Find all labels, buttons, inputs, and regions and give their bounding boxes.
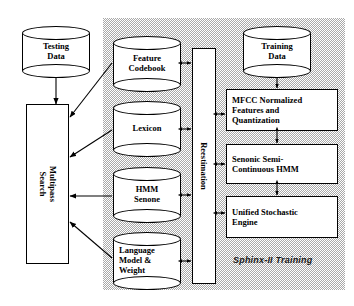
hmm-senone-cylinder: HMM Senone: [113, 167, 181, 223]
lexicon-cylinder: Lexicon: [113, 101, 181, 157]
testing-data-cylinder: Testing Data: [22, 26, 90, 78]
senonic-hmm-label: Senonic Semi- Continuous HMM: [227, 154, 304, 174]
mfcc-normalization-box: MFCC Normalized Features and Quantizatio…: [226, 89, 338, 131]
training-data-cylinder: Training Data: [243, 26, 311, 78]
cylinder-top-cap: [113, 101, 181, 115]
language-model-weight-cylinder: Language Model & Weight: [113, 232, 181, 290]
cylinder-bottom-cap: [113, 143, 181, 157]
testing-data-label: Testing Data: [22, 40, 90, 62]
cylinder-bottom-cap: [22, 64, 90, 78]
sphinx-ii-training-caption: Sphinx-II Training: [233, 255, 312, 265]
cylinder-bottom-cap: [113, 78, 181, 92]
cylinder-top-cap: [22, 26, 90, 40]
language-model-weight-label: Language Model & Weight: [113, 246, 181, 274]
hmm-senone-label: HMM Senone: [113, 181, 181, 207]
senonic-hmm-box: Senonic Semi- Continuous HMM: [226, 144, 338, 184]
cylinder-bottom-cap: [243, 64, 311, 78]
multipass-search-label: Multipass Search: [38, 166, 58, 202]
mfcc-normalization-label: MFCC Normalized Features and Quantizatio…: [227, 95, 307, 125]
reestimation-bar: Reestimation: [192, 48, 216, 284]
reestimation-label: Reestimation: [199, 142, 209, 190]
cylinder-bottom-cap: [113, 209, 181, 223]
unified-stochastic-engine-label: Unified Stochastic Engine: [227, 207, 303, 227]
lexicon-label: Lexicon: [113, 115, 181, 141]
sphinx-ii-architecture-diagram: Testing Data Multipass Search Feature Co…: [0, 0, 354, 306]
cylinder-top-cap: [243, 26, 311, 40]
feature-codebook-cylinder: Feature Codebook: [113, 36, 181, 92]
cylinder-top-cap: [113, 232, 181, 246]
unified-stochastic-engine-box: Unified Stochastic Engine: [226, 196, 338, 238]
feature-codebook-label: Feature Codebook: [113, 50, 181, 76]
training-data-label: Training Data: [243, 40, 311, 62]
multipass-search-box: Multipass Search: [26, 104, 69, 264]
cylinder-top-cap: [113, 36, 181, 50]
cylinder-top-cap: [113, 167, 181, 181]
cylinder-bottom-cap: [113, 276, 181, 290]
